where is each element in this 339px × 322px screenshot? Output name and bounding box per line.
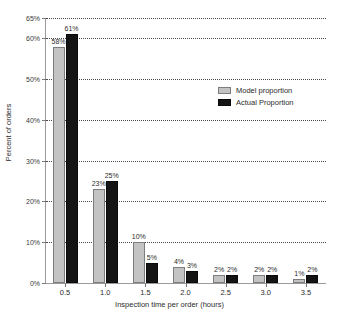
x-tick-label: 2.5 — [220, 289, 230, 297]
x-axis-title: Inspection time per order (hours) — [0, 300, 339, 309]
chart-legend: Model proportion Actual Proportion — [218, 86, 294, 110]
y-tick-label: 0% — [30, 280, 40, 287]
x-tick-mark — [266, 283, 267, 287]
x-tick-mark — [105, 283, 106, 287]
bar-value-label: 2% — [302, 266, 322, 273]
x-tick-label: 2.0 — [180, 289, 190, 297]
x-tick-mark — [145, 283, 146, 287]
y-tick-label: 20% — [26, 198, 40, 205]
y-tick-label: 30% — [26, 157, 40, 164]
x-tick-mark — [186, 283, 187, 287]
y-tick-label: 65% — [26, 15, 40, 22]
y-tick-label: 10% — [26, 239, 40, 246]
x-tick-mark — [65, 283, 66, 287]
bar-model — [293, 279, 305, 283]
legend-swatch-model-icon — [218, 87, 231, 94]
bar-chart: 0%10%20%30%40%50%60%65% 58%61%23%25%10%5… — [0, 0, 339, 322]
x-tick-label: 0.5 — [60, 289, 70, 297]
legend-item-model: Model proportion — [218, 86, 294, 95]
legend-label-model: Model proportion — [236, 87, 292, 95]
y-tick-label: 40% — [26, 116, 40, 123]
x-tick-label: 3.5 — [301, 289, 311, 297]
x-tick-label: 1.5 — [140, 289, 150, 297]
legend-label-actual: Actual Proportion — [236, 99, 294, 107]
y-tick-label: 50% — [26, 76, 40, 83]
plot-area: 0%10%20%30%40%50%60%65% 58%61%23%25%10%5… — [45, 18, 326, 284]
bar-group: 1%2% — [45, 18, 326, 283]
x-tick-label: 3.0 — [261, 289, 271, 297]
legend-item-actual: Actual Proportion — [218, 98, 294, 107]
x-tick-mark — [226, 283, 227, 287]
bar-actual — [306, 275, 318, 283]
y-axis-title: Percent of orders — [4, 73, 13, 193]
y-tick-label: 60% — [26, 35, 40, 42]
x-tick-mark — [306, 283, 307, 287]
legend-swatch-actual-icon — [218, 99, 231, 106]
x-tick-label: 1.0 — [100, 289, 110, 297]
y-tick-mark — [42, 283, 46, 284]
